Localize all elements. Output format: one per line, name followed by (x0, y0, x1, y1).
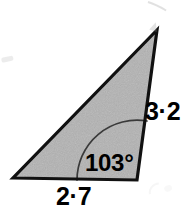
angle-measure-label: 103° (85, 151, 133, 175)
triangle-figure: 2·7 3·2 103° (0, 0, 195, 216)
base-length-label: 2·7 (56, 184, 91, 209)
right-side-length-label: 3·2 (145, 99, 180, 124)
